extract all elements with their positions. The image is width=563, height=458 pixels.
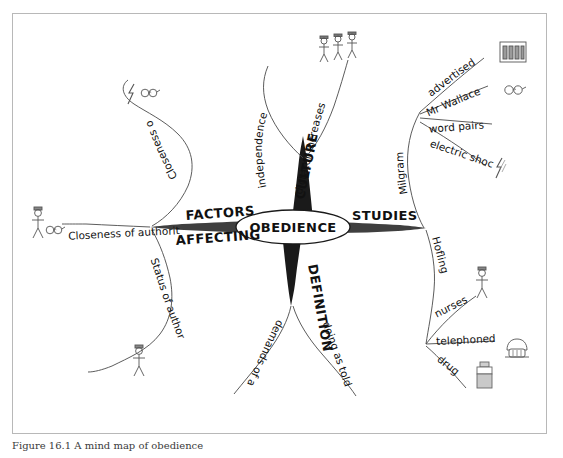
sublabel-closeness-of-learner[interactable]: Closeness of learner	[0, 0, 179, 182]
sublabel-hofling[interactable]: Hofling	[430, 235, 451, 274]
glasses-icon	[505, 86, 526, 94]
sublabel-telephoned[interactable]: telephoned	[436, 332, 496, 347]
sublabel-milgram[interactable]: Milgram	[393, 152, 409, 196]
lightning-glasses-icon	[128, 84, 160, 104]
sub-branch-labels: independence dictator increases Milgram …	[0, 0, 496, 389]
center-label: OBEDIENCE	[249, 220, 336, 235]
figure-caption: Figure 16.1 A mind map of obedience	[12, 440, 552, 451]
mindmap-diagram: OBEDIENCE CULTURE STUDIES DEFINITION FAC…	[0, 0, 563, 458]
branch-label-studies[interactable]: STUDIES	[352, 208, 417, 223]
telephone-icon	[505, 339, 529, 357]
newspaper-icon	[500, 42, 526, 62]
lightning-icon	[496, 158, 506, 178]
three-people-icon	[319, 32, 357, 62]
sublabel-independence[interactable]: independence	[252, 111, 269, 190]
figure-page: OBEDIENCE CULTURE STUDIES DEFINITION FAC…	[0, 0, 563, 458]
sublabel-word-pairs[interactable]: word pairs	[428, 119, 484, 135]
nurse-figure-icon	[476, 267, 488, 298]
sublabel-nurses[interactable]: nurses	[432, 293, 469, 319]
medicine-bottle-icon	[477, 362, 492, 388]
branch-label-affecting[interactable]: AFFECTING	[175, 227, 261, 248]
sublabel-doing-as-told[interactable]: doing as told	[321, 320, 355, 388]
figure-glasses-icon	[32, 207, 65, 238]
sublabel-electric-shock[interactable]: electric shock	[0, 0, 496, 170]
sublabel-status-of-authority-figure[interactable]: Status of authority figure	[0, 0, 188, 341]
sublabel-drug[interactable]: drug	[435, 353, 461, 378]
sublabel-demands-of-authority-figure[interactable]: demands of authority figure	[0, 0, 286, 389]
